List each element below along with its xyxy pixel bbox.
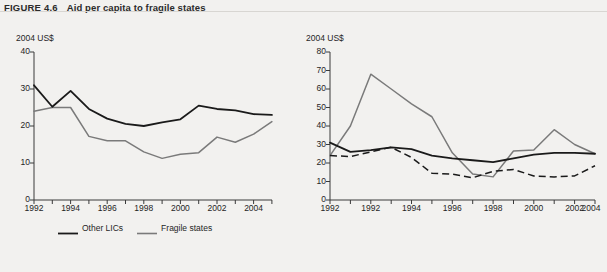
right-xtick-5: 1998 — [473, 204, 513, 213]
left-xtick-1994: 1994 — [51, 204, 91, 213]
right-ytick-50: 50 — [300, 103, 326, 112]
left-chart-legend: Other LICs Fragile states — [58, 223, 212, 233]
left-series-fragile-states — [34, 108, 272, 159]
left-y-ticks — [30, 52, 34, 200]
right-plot-area — [330, 52, 595, 200]
right-ytick-60: 60 — [300, 84, 326, 93]
left-ytick-40: 40 — [8, 47, 30, 56]
left-xtick-2004: 2004 — [234, 204, 274, 213]
right-xtick-1: 1992 — [310, 204, 350, 213]
legend-item-other-lics: Other LICs — [58, 223, 123, 233]
left-xtick-1996: 1996 — [87, 204, 127, 213]
right-ytick-70: 70 — [300, 66, 326, 75]
right-ytick-20: 20 — [300, 158, 326, 167]
left-xtick-1998: 1998 — [124, 204, 164, 213]
left-ytick-20: 20 — [8, 121, 30, 130]
right-chart-panel: 2004 US$ 80 70 60 50 40 30 20 10 0 — [300, 0, 607, 272]
figure-page: FIGURE 4.6Aid per capita to fragile stat… — [0, 0, 607, 272]
right-chart-svg — [330, 52, 595, 200]
left-plot-area — [34, 52, 272, 200]
left-xtick-2002: 2002 — [197, 204, 237, 213]
left-xtick-1992: 1992 — [14, 204, 54, 213]
right-ytick-30: 30 — [300, 140, 326, 149]
right-series-fragile-postconflict — [330, 74, 595, 177]
legend-swatch-solid-black-icon — [58, 224, 78, 233]
left-series-other-lics — [34, 85, 272, 126]
right-y-ticks — [326, 52, 330, 200]
right-xtick-4: 1996 — [432, 204, 472, 213]
legend-label-other-lics: Other LICs — [82, 223, 123, 233]
right-xtick-3: 1994 — [392, 204, 432, 213]
legend-swatch-solid-gray-icon — [137, 224, 157, 233]
right-series-other-lics — [330, 143, 595, 162]
left-xtick-2000: 2000 — [160, 204, 200, 213]
right-xtick-6: 2000 — [514, 204, 554, 213]
left-ytick-30: 30 — [8, 84, 30, 93]
right-ytick-10: 10 — [300, 177, 326, 186]
legend-item-fragile-states: Fragile states — [137, 223, 212, 233]
left-chart-panel: 2004 US$ 40 30 20 10 0 — [0, 0, 300, 272]
right-xtick-8: 2004 — [575, 204, 607, 213]
right-xtick-2: 1992 — [351, 204, 391, 213]
legend-label-fragile-states: Fragile states — [161, 223, 212, 233]
right-y-axis-unit-label: 2004 US$ — [306, 33, 344, 43]
left-chart-svg — [34, 52, 272, 200]
left-y-axis-unit-label: 2004 US$ — [16, 33, 54, 43]
left-ytick-10: 10 — [8, 158, 30, 167]
right-ytick-80: 80 — [300, 47, 326, 56]
right-ytick-40: 40 — [300, 121, 326, 130]
